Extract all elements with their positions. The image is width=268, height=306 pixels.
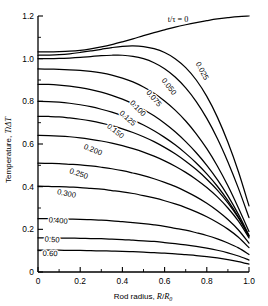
y-tick-label: 0.8: [22, 96, 34, 106]
svg-text:t/τ = 0: t/τ = 0: [168, 15, 189, 24]
data-curves: [38, 16, 249, 264]
y-tick-label: 0.4: [22, 182, 34, 192]
y-tick-label: 0: [29, 267, 34, 277]
svg-text:0.075: 0.075: [144, 88, 163, 108]
y-tick-label: 1.2: [22, 11, 34, 21]
svg-text:Temperature, T/ΔT: Temperature, T/ΔT: [4, 116, 13, 183]
chart-figure: 00.20.40.60.81.01.2 00.20.40.60.81.0 t/τ…: [0, 0, 268, 306]
curve-label: t/τ = 0t/τ = 0: [168, 15, 189, 24]
curve-label: 0.2000.200: [82, 142, 103, 157]
x-axis-title: Rod radius, R/R0: [114, 292, 173, 302]
curve-0_075: [38, 69, 249, 232]
y-axis-tick-labels: 00.20.40.60.81.01.2: [22, 11, 34, 277]
x-axis-tick-labels: 00.20.40.60.81.0: [36, 276, 255, 286]
y-tick-label: 1.0: [22, 54, 34, 64]
svg-text:0.025: 0.025: [194, 60, 211, 81]
curve-label: 0.0750.075: [144, 88, 163, 108]
svg-text:0.60: 0.60: [43, 249, 58, 259]
svg-text:Rod radius, R/R0: Rod radius, R/R0: [114, 292, 173, 302]
curve-label: 0.500.50: [45, 235, 60, 245]
svg-text:0.300: 0.300: [56, 187, 76, 200]
curve-0_400: [38, 219, 249, 255]
svg-text:0.400: 0.400: [48, 215, 68, 226]
x-tick-label: 0.6: [159, 276, 171, 286]
curve-label: 0.600.60: [43, 249, 58, 259]
curve-label: 0.0250.025: [194, 60, 211, 81]
temperature-profile-chart: 00.20.40.60.81.01.2 00.20.40.60.81.0 t/τ…: [0, 0, 268, 306]
x-tick-label: 0.2: [74, 276, 86, 286]
x-tick-label: 0.8: [201, 276, 213, 286]
curve-label: 0.1500.150: [105, 122, 126, 141]
x-tick-label: 0: [36, 276, 41, 286]
y-tick-label: 0.6: [22, 139, 34, 149]
y-axis-ticks: [38, 16, 43, 272]
x-tick-label: 0.4: [117, 276, 129, 286]
curve-label: 0.0500.050: [160, 76, 179, 97]
x-axis-ticks: [38, 267, 249, 272]
svg-text:0.150: 0.150: [105, 122, 126, 141]
curve-0_50: [38, 238, 249, 260]
curve-0_60: [38, 250, 249, 264]
svg-text:0.050: 0.050: [160, 76, 179, 97]
curve-label: 0.3000.300: [56, 187, 76, 200]
curve-label: 0.2500.250: [68, 166, 89, 180]
y-axis-title: Temperature, T/ΔT: [4, 116, 13, 183]
x-tick-label: 1.0: [243, 276, 255, 286]
svg-text:0.200: 0.200: [82, 142, 103, 157]
curve-label: 0.4000.400: [48, 215, 68, 226]
svg-text:0.250: 0.250: [68, 166, 89, 180]
svg-text:0.50: 0.50: [45, 235, 60, 245]
y-tick-label: 0.2: [22, 224, 34, 234]
plot-axes: [38, 16, 249, 272]
